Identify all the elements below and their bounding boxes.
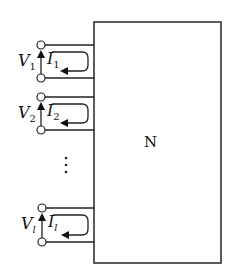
port-2-top-terminal — [37, 93, 45, 101]
port-1-top-terminal — [37, 41, 45, 49]
network-box — [94, 22, 221, 263]
port-l: Vl Il — [21, 204, 94, 246]
port-l-bottom-terminal — [38, 238, 46, 246]
port-l-current-loop-arrow-icon — [53, 215, 88, 235]
port-1: V1 I1 — [18, 41, 94, 82]
n-port-network-diagram: N V1 I1 V2 I2 Vl Il — [0, 0, 240, 280]
port-2-bottom-terminal — [37, 126, 45, 134]
port-l-voltage-label: Vl — [21, 214, 36, 235]
port-l-top-terminal — [38, 204, 46, 212]
port-1-bottom-terminal — [37, 74, 45, 82]
port-2: V2 I2 — [18, 93, 94, 134]
network-label: N — [144, 133, 157, 151]
ellipsis-dots — [65, 157, 68, 174]
port-2-voltage-label: V2 — [18, 103, 36, 124]
port-1-voltage-label: V1 — [18, 51, 36, 72]
